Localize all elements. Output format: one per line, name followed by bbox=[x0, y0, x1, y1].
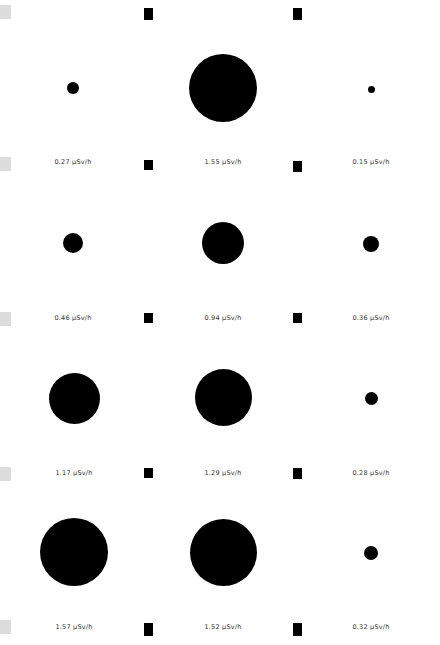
dose-label: 0.27 µSv/h bbox=[13, 158, 133, 166]
edge-marker bbox=[0, 5, 11, 19]
separator-square bbox=[144, 623, 153, 636]
dose-circle bbox=[202, 222, 244, 264]
dose-circle bbox=[189, 54, 257, 122]
separator-square bbox=[293, 468, 302, 479]
separator-square bbox=[293, 161, 302, 172]
dose-label: 0.28 µSv/h bbox=[311, 469, 431, 477]
separator-square bbox=[144, 160, 153, 170]
dose-circle bbox=[364, 546, 378, 560]
dose-label: 1.57 µSv/h bbox=[14, 623, 134, 631]
dose-circle bbox=[365, 392, 378, 405]
edge-marker bbox=[0, 312, 11, 326]
edge-marker bbox=[0, 620, 11, 634]
separator-square bbox=[293, 8, 302, 20]
separator-square bbox=[144, 8, 153, 20]
separator-square bbox=[293, 313, 302, 323]
dose-circle bbox=[67, 82, 79, 94]
dose-circle bbox=[195, 369, 252, 426]
separator-square bbox=[293, 623, 302, 636]
dose-circle bbox=[363, 236, 379, 252]
dose-label: 1.29 µSv/h bbox=[163, 469, 283, 477]
separator-square bbox=[144, 468, 153, 478]
dose-circle bbox=[49, 373, 100, 424]
dose-label: 1.52 µSv/h bbox=[163, 623, 283, 631]
dose-label: 0.94 µSv/h bbox=[163, 314, 283, 322]
dose-label: 0.46 µSv/h bbox=[13, 314, 133, 322]
dose-circle bbox=[190, 519, 257, 586]
dose-label: 1.55 µSv/h bbox=[163, 158, 283, 166]
dose-circle bbox=[63, 233, 83, 253]
edge-marker bbox=[0, 467, 11, 481]
dose-label: 0.32 µSv/h bbox=[311, 623, 431, 631]
dose-label: 1.17 µSv/h bbox=[14, 469, 134, 477]
edge-marker bbox=[0, 157, 11, 171]
dose-circle bbox=[40, 518, 108, 586]
dose-label: 0.15 µSv/h bbox=[311, 158, 431, 166]
separator-square bbox=[144, 313, 153, 323]
dose-circle bbox=[368, 86, 375, 93]
dose-label: 0.36 µSv/h bbox=[311, 314, 431, 322]
